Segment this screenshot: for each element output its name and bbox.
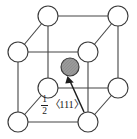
atom-back-top-right [108,6,128,26]
atom-front-bottom-left [8,112,28,132]
crystal-unit-cell-figure: 1 2 〈111〉 [0,0,137,139]
atom-front-top-right [78,42,98,62]
atom-front-top-left [8,42,28,62]
atom-interstitial-shaded [61,58,79,76]
fraction-numerator: 1 [41,95,48,105]
burgers-vector-arrowhead [65,76,74,84]
direction-index-111: 〈111〉 [50,100,84,111]
burgers-vector-label: 1 2 〈111〉 [41,95,83,116]
fraction-one-half: 1 2 [41,95,48,116]
atom-back-top-left [38,6,58,26]
fraction-denominator: 2 [41,106,48,116]
unit-cell-svg [0,0,137,139]
atom-back-bottom-right [108,78,128,98]
